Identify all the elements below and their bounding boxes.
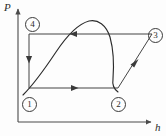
state-point-label-1: 1: [22, 97, 37, 112]
state-point-label-4: 4: [25, 17, 40, 32]
pressure-axis-label: P: [4, 2, 11, 13]
cycle-process-lines: [26, 31, 152, 91]
process-2-to-3-compression: [118, 34, 152, 88]
process-3-to-4-arrow: [70, 31, 78, 37]
state-point-label-2: 2: [111, 97, 126, 112]
state-point-label-3: 3: [148, 28, 163, 43]
process-4-to-1-arrow: [26, 56, 32, 64]
enthalpy-axis-label: h: [155, 122, 161, 133]
saturation-dome-curve: [23, 21, 118, 95]
process-1-to-2-arrow: [71, 85, 79, 91]
ph-diagram-figure: P h 1 2 3 4: [0, 0, 166, 136]
